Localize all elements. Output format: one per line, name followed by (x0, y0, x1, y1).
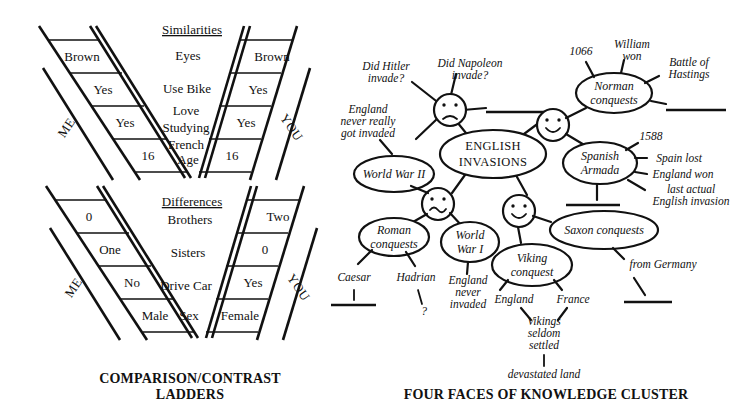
criterion-love: Love (173, 103, 200, 118)
leaf-vikings-seldom-3: settled (529, 339, 559, 351)
spoke-england-won (635, 172, 647, 174)
leaf-1588: 1588 (640, 130, 663, 142)
me-value-eyes: Brown (64, 49, 100, 64)
spoke-from-germany (613, 248, 624, 259)
leaf-hadrian-question: ? (421, 305, 427, 317)
criterion-drive-car: Drive Car (160, 278, 212, 293)
leaf-england-never-invaded-3: invaded (450, 298, 487, 310)
leaf-england-never-really-3: got invaded (341, 127, 395, 140)
leaf-france: France (555, 293, 589, 305)
diagram-canvas: ME Brown Yes Yes 16 YOU Brown Ye (0, 0, 747, 410)
criterion-sex: Sex (179, 308, 199, 323)
ladders-caption-line1: COMPARISON/CONTRAST (99, 371, 281, 386)
spoke-england-leaf (500, 280, 508, 290)
spoke-ww2-left (416, 118, 438, 139)
face-lower-right-eye-right (523, 204, 526, 207)
me-value-sex: Male (142, 308, 169, 323)
knowledge-cluster: Did Hitler invade? Did Napoleon invade? … (331, 38, 730, 402)
me-value-bike: Yes (94, 82, 113, 97)
me-value-brothers: 0 (86, 209, 93, 224)
spoke-to-viking (518, 227, 521, 243)
leaf-last-actual-1: last actual (667, 183, 715, 195)
criterion-use-bike: Use Bike (163, 81, 211, 96)
leaf-did-hitler-2: invade? (368, 72, 405, 84)
you-value-sisters: 0 (262, 242, 269, 257)
spoke-blank-2 (651, 101, 666, 104)
me-left-rail-2 (46, 186, 147, 340)
node-world-war-2-label: World War II (363, 167, 426, 181)
similarities-criteria: Similarities Eyes Use Bike Love Studying… (162, 22, 222, 167)
similarities-me-ladder: ME Brown Yes Yes 16 (39, 26, 191, 180)
leaf-1066: 1066 (570, 45, 593, 57)
me-right-rail-a (90, 26, 185, 178)
similarities-you-ladder: YOU Brown Yes Yes 16 (199, 26, 310, 180)
you-label-top: YOU (277, 111, 306, 144)
node-english-invasions (440, 130, 546, 178)
you-value-brothers: Two (267, 209, 290, 224)
node-norman-conquests-line1: Norman (593, 79, 633, 93)
node-norman-conquests-line2: conquests (590, 93, 638, 107)
leaf-hadrian: Hadrian (396, 271, 436, 283)
leaf-william-won-2: won (622, 50, 641, 62)
leaf-william-won-1: William (614, 38, 650, 50)
you-value-age: 16 (226, 148, 240, 163)
criterion-eyes: Eyes (175, 48, 200, 63)
node-english-invasions-line1: ENGLISH (465, 139, 521, 153)
spoke-saxon-blank (634, 278, 645, 295)
criterion-sisters: Sisters (171, 245, 206, 260)
me-value-french: Yes (116, 115, 135, 130)
node-viking-conquest-line1: Viking (517, 251, 547, 265)
face-upper-left (434, 94, 466, 126)
me-value-age: 16 (142, 148, 156, 163)
node-world-war-1-line1: World (456, 228, 486, 242)
face-lower-left-eye-right (442, 197, 445, 200)
node-viking-conquest-line2: conquest (511, 265, 554, 279)
spoke-caesar (358, 250, 372, 264)
face-lower-left-eye-left (430, 197, 433, 200)
cluster-caption: FOUR FACES OF KNOWLEDGE CLUSTER (404, 387, 689, 402)
face-lower-right-eye-left (511, 204, 514, 207)
spoke-to-saxon (533, 216, 551, 222)
differences-you-ladder: YOU Two 0 Yes Female (206, 186, 317, 340)
you-value-sex: Female (221, 308, 259, 323)
criterion-age: Age (177, 152, 199, 167)
leaf-caesar: Caesar (337, 271, 371, 283)
face-lower-right (503, 195, 535, 227)
node-english-invasions-line2: INVASIONS (459, 155, 527, 169)
leaf-last-actual-2: English invasion (652, 195, 730, 208)
leaf-devastated-land: devastated land (508, 368, 581, 380)
comparison-contrast-ladders: ME Brown Yes Yes 16 YOU Brown Ye (39, 22, 317, 402)
you-value-bike: Yes (249, 82, 268, 97)
you-value-drive-car: Yes (244, 275, 263, 290)
differences-title: Differences (162, 194, 222, 209)
differences-me-ladder: ME 0 One No Male (46, 186, 198, 340)
you-label-bottom: YOU (284, 271, 313, 304)
leaf-did-napoleon-2: invade? (452, 69, 489, 81)
node-spanish-armada-line2: Armada (580, 163, 620, 177)
spoke-last-actual (628, 180, 645, 190)
node-spanish-armada-line1: Spanish (581, 149, 619, 163)
spoke-england-never-invaded (467, 262, 468, 274)
face-upper-left-eye-left (442, 103, 445, 106)
criterion-brothers: Brothers (168, 212, 213, 227)
node-world-war-1-line2: War I (457, 242, 485, 256)
leaf-england-never-invaded-2: never (455, 286, 481, 298)
leaf-vikings-seldom-2: seldom (528, 327, 561, 339)
ladders-caption-line2: LADDERS (156, 387, 224, 402)
leaf-battle-hastings-2: Hastings (668, 68, 710, 81)
node-saxon-conquests-label: Saxon conquests (564, 223, 644, 237)
me-value-drive-car: No (124, 275, 140, 290)
face-upper-right-eye-left (545, 118, 548, 121)
spoke-1588 (626, 143, 638, 150)
criterion-studying: Studying (163, 120, 210, 135)
node-roman-conquests-line2: conquests (370, 237, 418, 251)
spoke-england-never-really (380, 140, 392, 154)
you-value-eyes: Brown (254, 49, 290, 64)
you-value-french: Yes (237, 115, 256, 130)
spoke-hadrian-question (418, 290, 422, 304)
spoke-to-norman (566, 108, 586, 118)
spoke-battle-hastings (645, 76, 659, 83)
leaf-england: England (494, 293, 534, 306)
spoke-1066 (586, 62, 594, 77)
similarities-title: Similarities (162, 22, 222, 37)
